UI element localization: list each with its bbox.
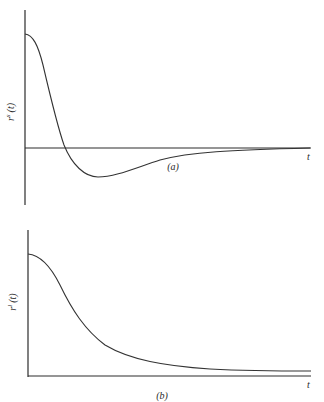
panel-a-ylabel: rs(t)	[4, 102, 17, 121]
svg-text:rl(t): rl(t)	[6, 293, 19, 311]
figure: rs(t) t (a) rl(t) t (b)	[0, 0, 324, 402]
panel-a: rs(t) t (a)	[4, 10, 311, 205]
panel-b: rl(t) t (b)	[6, 230, 311, 402]
panel-a-curve	[25, 34, 310, 177]
panel-b-label: (b)	[156, 390, 168, 402]
panel-a-xlabel: t	[307, 151, 310, 162]
panel-a-label: (a)	[167, 161, 179, 173]
panel-b-ylabel: rl(t)	[6, 293, 19, 311]
panel-b-xlabel: t	[307, 379, 310, 390]
panel-b-curve	[28, 254, 311, 371]
svg-text:rs(t): rs(t)	[4, 102, 17, 121]
